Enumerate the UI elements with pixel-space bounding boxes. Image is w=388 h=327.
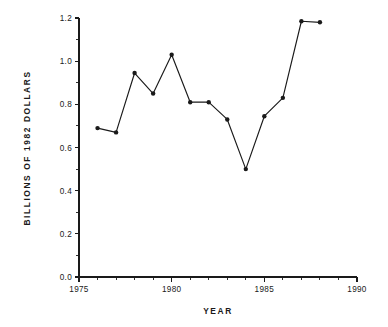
- y-axis: 0.00.20.40.60.81.01.2: [60, 14, 79, 282]
- series-line: [98, 21, 320, 169]
- x-axis-major-ticks: [79, 277, 357, 282]
- x-axis: 1975198019851990: [69, 277, 367, 294]
- data-point: [151, 91, 155, 95]
- x-tick-label: 1990: [347, 285, 367, 294]
- data-point: [225, 117, 229, 121]
- y-tick-label: 1.2: [60, 14, 72, 23]
- y-tick-label: 0.8: [60, 100, 72, 109]
- x-tick-label: 1975: [69, 285, 89, 294]
- data-point: [207, 100, 211, 104]
- data-point: [318, 20, 322, 24]
- y-axis-major-ticks: [75, 18, 80, 277]
- data-point: [262, 114, 266, 118]
- x-tick-label: 1980: [162, 285, 182, 294]
- y-tick-label: 0.4: [60, 187, 72, 196]
- y-tick-label: 0.6: [60, 144, 72, 153]
- data-point: [188, 100, 192, 104]
- y-axis-title: BILLIONS OF 1982 DOLLARS: [22, 70, 32, 225]
- line-chart: 0.00.20.40.60.81.01.2 1975198019851990 B…: [0, 0, 388, 327]
- data-point: [299, 19, 303, 23]
- data-point: [95, 126, 99, 130]
- x-axis-title: YEAR: [203, 306, 233, 316]
- y-axis-tick-labels: 0.00.20.40.60.81.01.2: [60, 14, 72, 282]
- data-point: [169, 52, 173, 56]
- series-markers: [95, 19, 322, 171]
- y-tick-label: 1.0: [60, 57, 72, 66]
- y-tick-label: 0.0: [60, 273, 72, 282]
- data-point: [132, 71, 136, 75]
- data-point: [281, 96, 285, 100]
- data-point: [244, 167, 248, 171]
- x-axis-tick-labels: 1975198019851990: [69, 285, 367, 294]
- chart-canvas: 0.00.20.40.60.81.01.2 1975198019851990 B…: [0, 0, 388, 327]
- data-point: [114, 130, 118, 134]
- y-tick-label: 0.2: [60, 230, 72, 239]
- data-series: [95, 19, 322, 171]
- x-tick-label: 1985: [255, 285, 275, 294]
